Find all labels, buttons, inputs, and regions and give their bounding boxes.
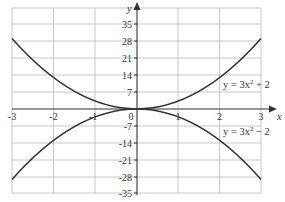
svg-text:14: 14	[122, 70, 132, 81]
x-axis-label: x	[276, 111, 282, 122]
x-axis-arrow-icon	[269, 106, 277, 113]
svg-text:7: 7	[127, 87, 132, 98]
svg-text:-28: -28	[119, 172, 132, 183]
x-tick-labels: -3 -2 -1 0 1 2 3	[8, 111, 264, 122]
upper-curve-label: y = 3x2 + 2	[223, 78, 270, 90]
svg-text:1: 1	[176, 111, 181, 122]
svg-text:2: 2	[217, 111, 222, 122]
svg-text:-2: -2	[49, 111, 57, 122]
svg-text:-21: -21	[119, 155, 132, 166]
svg-text:-35: -35	[119, 188, 132, 199]
svg-text:-14: -14	[119, 138, 132, 149]
svg-text:3: 3	[259, 111, 264, 122]
svg-text:28: 28	[122, 36, 132, 47]
svg-text:21: 21	[122, 53, 132, 64]
y-axis-arrow-icon	[134, 2, 141, 10]
svg-text:-3: -3	[8, 111, 16, 122]
lower-curve-label: y = 3x2 − 2	[223, 125, 270, 137]
svg-text:-1: -1	[89, 111, 97, 122]
svg-text:0: 0	[129, 111, 134, 122]
y-axis-label: y	[126, 3, 132, 14]
svg-text:35: 35	[122, 19, 132, 30]
svg-text:-7: -7	[124, 121, 132, 132]
chart: 35 28 21 14 7 -7 -14 -21 -28 -35 -3 -2 -…	[0, 0, 285, 202]
